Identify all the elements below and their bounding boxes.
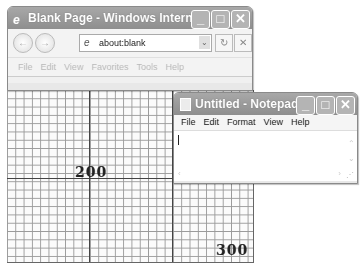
notepad-menu-help[interactable]: Help [287,115,314,130]
ie-navigation-bar: ← → e about:blank ⌄ ↻ ✕ [8,29,252,57]
address-dropdown-icon[interactable]: ⌄ [199,36,210,49]
ie-minimize-button[interactable]: _ [191,10,210,29]
notepad-menu-edit[interactable]: Edit [200,115,224,130]
notepad-menu-format[interactable]: Format [223,115,260,130]
grid-label-200: 200 [75,164,107,180]
text-caret [178,135,179,145]
scroll-up-icon[interactable]: ⌃ [345,139,357,148]
ie-window: e Blank Page - Windows Intern... _ □ ✕ ←… [7,6,253,91]
notepad-close-button[interactable]: ✕ [336,96,355,115]
ie-close-button[interactable]: ✕ [231,10,250,29]
page-icon: e [84,37,94,48]
ie-menu-file[interactable]: File [14,58,37,76]
notepad-menu-file[interactable]: File [177,115,200,130]
scroll-left-icon[interactable]: ‹ [178,169,181,178]
notepad-minimize-button[interactable]: _ [296,96,315,115]
vertical-scrollbar[interactable]: ⌃ ⌄ [345,131,357,169]
notepad-icon [180,98,191,111]
address-input[interactable]: about:blank [99,35,146,51]
grid-label-300: 300 [216,242,248,258]
ie-command-bar [8,76,252,83]
refresh-button[interactable]: ↻ [215,34,233,52]
resize-grip-icon[interactable]: ⋰ [346,170,356,180]
notepad-maximize-button[interactable]: □ [316,96,335,115]
ie-maximize-button[interactable]: □ [211,10,230,29]
ie-menu-edit[interactable]: Edit [37,58,61,76]
scroll-right-icon[interactable]: › [338,169,341,178]
ie-menu-help[interactable]: Help [161,58,188,76]
ie-window-title: Blank Page - Windows Intern... [28,11,203,25]
notepad-menu-bar: File Edit Format View Help [174,115,357,131]
ie-menu-tools[interactable]: Tools [132,58,161,76]
ie-titlebar[interactable]: e Blank Page - Windows Intern... _ □ ✕ [8,7,252,29]
notepad-window-title: Untitled - Notepad [195,97,298,111]
stop-button[interactable]: ✕ [234,34,252,52]
notepad-window: Untitled - Notepad _ □ ✕ File Edit Forma… [173,92,358,184]
notepad-text-area[interactable]: ⌃ ⌄ ‹ › ⋰ [174,131,357,181]
notepad-menu-view[interactable]: View [260,115,287,130]
horizontal-scrollbar[interactable]: ‹ › [174,169,345,181]
scroll-down-icon[interactable]: ⌄ [345,154,357,163]
ie-menu-favorites[interactable]: Favorites [87,58,132,76]
notepad-titlebar[interactable]: Untitled - Notepad _ □ ✕ [174,93,357,115]
ie-menu-view[interactable]: View [60,58,87,76]
address-bar[interactable]: e about:blank ⌄ [79,34,212,52]
forward-button[interactable]: → [35,33,55,53]
ie-menu-bar: File Edit View Favorites Tools Help [8,57,252,76]
back-button[interactable]: ← [13,33,33,53]
ie-logo-icon: e [13,13,24,24]
